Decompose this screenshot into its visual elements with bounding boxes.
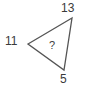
side-label-top-right: 13 <box>61 2 74 14</box>
triangle-figure: 13 11 5 ? <box>0 0 88 89</box>
unknown-value-marker: ? <box>49 40 55 51</box>
side-label-bottom: 5 <box>60 73 67 85</box>
side-label-left: 11 <box>5 35 17 47</box>
